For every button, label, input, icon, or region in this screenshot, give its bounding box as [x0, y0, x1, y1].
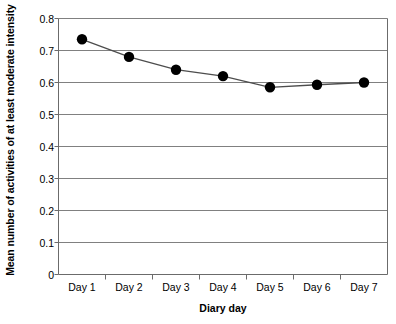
- data-point: [124, 52, 134, 62]
- x-tick-label: Day 5: [256, 282, 283, 293]
- x-tick-label: Day 2: [115, 282, 142, 293]
- y-axis-tick-marks: [55, 19, 59, 275]
- data-point: [77, 34, 87, 44]
- gridlines: [59, 19, 388, 243]
- plot-area: [0, 0, 396, 324]
- data-point: [265, 82, 275, 92]
- x-axis-tick-marks: [106, 275, 341, 280]
- data-point: [359, 77, 369, 87]
- x-tick-label: Day 6: [303, 282, 330, 293]
- x-tick-label: Day 1: [68, 282, 95, 293]
- x-tick-label: Day 3: [162, 282, 189, 293]
- data-point: [171, 65, 181, 75]
- x-tick-label: Day 4: [209, 282, 236, 293]
- x-axis-title: Diary day: [58, 303, 388, 314]
- data-point: [218, 71, 228, 81]
- x-tick-label: Day 7: [350, 282, 377, 293]
- data-point: [312, 80, 322, 90]
- line-chart: Mean number of activities of at least mo…: [0, 0, 396, 324]
